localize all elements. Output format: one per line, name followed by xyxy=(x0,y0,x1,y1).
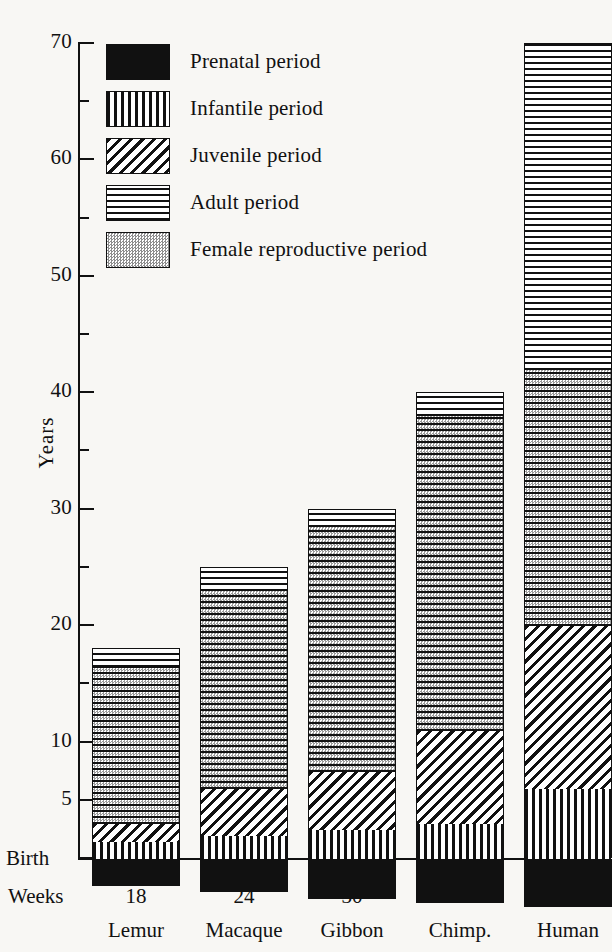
y-axis-title: Years xyxy=(34,383,59,503)
x-species-label: Gibbon xyxy=(308,918,396,942)
y-tick-20 xyxy=(78,624,94,626)
x-axis-column-human: 38Human xyxy=(524,884,612,942)
y-tick-minor-15 xyxy=(78,682,89,684)
bar-lemur xyxy=(92,648,180,858)
y-tick-label: 60 xyxy=(50,147,72,168)
segment-juvenile xyxy=(309,772,395,830)
legend-label: Female reproductive period xyxy=(190,236,427,262)
y-tick-label: 10 xyxy=(50,730,72,751)
segment-adult xyxy=(417,393,503,416)
segment-adult xyxy=(201,568,287,591)
y-tick-40 xyxy=(78,391,94,393)
segment-adult xyxy=(525,44,611,370)
x-gestation-weeks: 18 xyxy=(92,884,180,908)
legend-label: Juvenile period xyxy=(190,142,322,168)
legend-swatch-stipple-gray-icon xyxy=(106,232,170,268)
y-tick-minor-65 xyxy=(78,100,89,102)
segment-adult xyxy=(93,649,179,666)
segment-female-reproductive xyxy=(309,527,395,772)
y-tick-minor-25 xyxy=(78,566,89,568)
bar-chimp xyxy=(416,392,504,858)
y-tick-minor-55 xyxy=(78,217,89,219)
y-tick-70 xyxy=(78,42,94,44)
segment-juvenile xyxy=(93,824,179,841)
segment-adult xyxy=(309,510,395,527)
segment-infantile xyxy=(525,789,611,859)
legend-swatch-vertical-lines-icon xyxy=(106,91,170,127)
legend-swatch-horizontal-lines-icon xyxy=(106,185,170,221)
y-tick-label: 20 xyxy=(50,613,72,634)
x-gestation-weeks: 30 xyxy=(308,884,396,908)
y-tick-minor-35 xyxy=(78,449,89,451)
y-axis-line xyxy=(78,43,80,860)
segment-female-reproductive xyxy=(417,416,503,730)
x-axis-column-macaque: 24Macaque xyxy=(200,884,288,942)
y-tick-label: 70 xyxy=(50,31,72,52)
x-gestation-weeks: 34 xyxy=(416,884,504,908)
bar-human xyxy=(524,43,612,858)
y-tick-label: 50 xyxy=(50,264,72,285)
segment-infantile xyxy=(417,824,503,859)
x-species-label: Lemur xyxy=(92,918,180,942)
x-species-label: Chimp. xyxy=(416,918,504,942)
segment-infantile xyxy=(201,836,287,859)
y-tick-50 xyxy=(78,275,94,277)
x-axis-column-gibbon: 30Gibbon xyxy=(308,884,396,942)
legend-swatch-diagonal-lines-icon xyxy=(106,138,170,174)
x-gestation-weeks: 38 xyxy=(524,884,612,908)
segment-juvenile xyxy=(201,789,287,836)
segment-infantile xyxy=(93,842,179,859)
segment-female-reproductive xyxy=(201,591,287,789)
x-gestation-weeks: 24 xyxy=(200,884,288,908)
legend-label: Prenatal period xyxy=(190,48,321,74)
y-tick-minor-45 xyxy=(78,333,89,335)
segment-female-reproductive xyxy=(93,667,179,824)
segment-female-reproductive xyxy=(525,370,611,626)
y-tick-60 xyxy=(78,158,94,160)
segment-infantile xyxy=(309,830,395,859)
segment-juvenile xyxy=(417,731,503,824)
segment-juvenile xyxy=(525,626,611,789)
y-tick-30 xyxy=(78,508,94,510)
x-axis-column-lemur: 18Lemur xyxy=(92,884,180,942)
bar-macaque xyxy=(200,567,288,858)
bar-gibbon xyxy=(308,509,396,858)
legend-label: Adult period xyxy=(190,189,299,215)
legend-label: Infantile period xyxy=(190,95,323,121)
bar-prenatal-lemur xyxy=(92,859,180,886)
weeks-axis-label: Weeks xyxy=(8,884,63,909)
x-species-label: Human xyxy=(524,918,612,942)
y-tick-label: 5 xyxy=(61,788,72,809)
legend-swatch-solid-black-icon xyxy=(106,44,170,80)
x-species-label: Macaque xyxy=(200,918,288,942)
x-axis-column-chimp: 34Chimp. xyxy=(416,884,504,942)
birth-axis-label: Birth xyxy=(6,846,49,871)
